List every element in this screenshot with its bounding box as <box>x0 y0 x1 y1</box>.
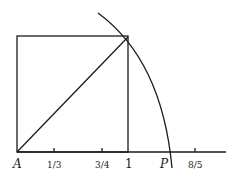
label-one: 1 <box>125 157 133 171</box>
diagonal <box>17 37 128 152</box>
label-one-third: 1/3 <box>47 160 62 170</box>
label-p: P <box>159 157 169 171</box>
label-a: A <box>12 157 22 171</box>
label-three-quarters: 3/4 <box>95 160 110 170</box>
label-eight-fifths: 8/5 <box>188 160 203 170</box>
square-diagonal-arc-diagram: A 1/3 3/4 1 P 8/5 <box>0 0 246 185</box>
